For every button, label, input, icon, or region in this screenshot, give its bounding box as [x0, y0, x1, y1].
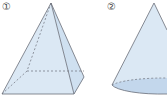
figure-2-label: ②	[107, 2, 116, 12]
figures-canvas	[0, 0, 167, 98]
figure-1-label: ①	[2, 2, 11, 12]
cone	[112, 3, 167, 94]
square-pyramid	[2, 3, 84, 94]
